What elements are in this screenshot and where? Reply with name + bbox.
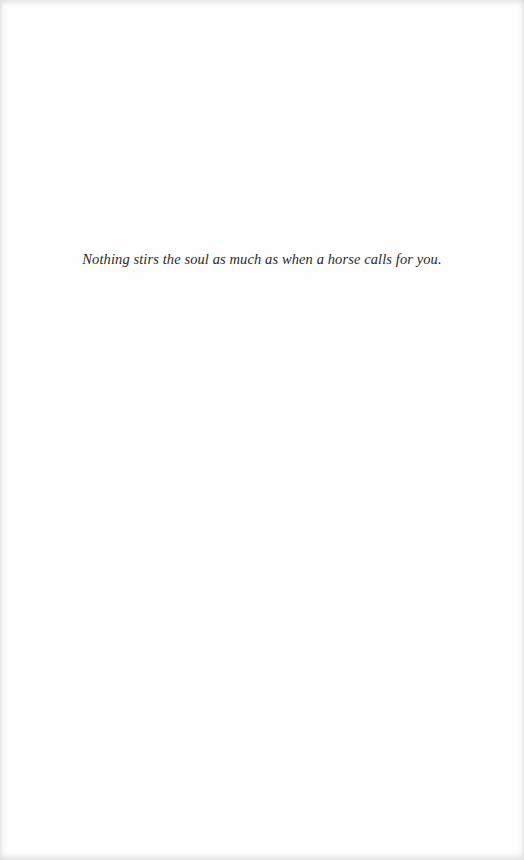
epigraph-quote: Nothing stirs the soul as much as when a… <box>0 249 524 269</box>
book-page: Nothing stirs the soul as much as when a… <box>0 0 524 860</box>
